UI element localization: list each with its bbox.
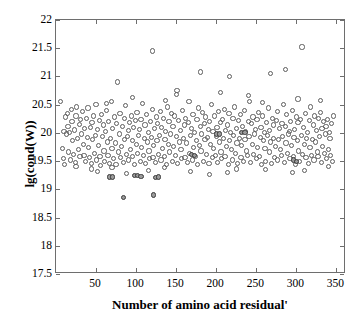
data-point [231, 133, 236, 138]
y-tick-mark [340, 133, 344, 134]
data-point [142, 122, 147, 127]
data-point [318, 110, 323, 115]
data-point [283, 67, 288, 72]
data-point [290, 108, 295, 113]
x-tick-mark [136, 20, 137, 24]
data-point [167, 149, 172, 154]
data-point [282, 160, 287, 165]
data-point [71, 152, 76, 157]
data-point [89, 120, 94, 125]
data-point [257, 154, 262, 159]
x-tick-label: 250 [247, 277, 264, 289]
data-point [330, 159, 335, 164]
data-point [311, 122, 316, 127]
data-point [81, 142, 86, 147]
data-point [139, 145, 144, 150]
data-point [113, 140, 118, 145]
data-point [246, 134, 251, 139]
data-point [162, 154, 167, 159]
data-point [240, 124, 245, 129]
data-point [186, 120, 191, 125]
scatter-points-layer [56, 20, 344, 272]
data-point [250, 142, 255, 147]
data-point [124, 152, 129, 157]
data-point [249, 121, 254, 126]
data-point [99, 112, 104, 117]
data-point [95, 127, 100, 132]
data-point [205, 135, 210, 140]
data-point [175, 161, 180, 166]
data-point [326, 164, 331, 169]
data-point [323, 124, 328, 129]
data-point [171, 144, 176, 149]
data-point [146, 168, 151, 173]
data-point [299, 44, 304, 49]
data-point [69, 107, 74, 112]
data-point [86, 145, 91, 150]
data-point [233, 151, 238, 156]
data-point [150, 48, 155, 53]
y-tick-mark [56, 133, 60, 134]
x-tick-mark [336, 20, 337, 24]
data-point [79, 131, 84, 136]
data-point [109, 99, 114, 104]
y-tick-label: 19.5 [32, 154, 52, 166]
data-point [104, 108, 109, 113]
data-point [170, 159, 175, 164]
data-point [160, 146, 165, 151]
x-tick-mark [216, 20, 217, 24]
data-point [225, 170, 230, 175]
data-point [242, 108, 247, 113]
data-point [188, 169, 193, 174]
data-point [120, 124, 125, 129]
data-point [97, 154, 102, 159]
data-point [269, 161, 274, 166]
data-point [319, 160, 324, 165]
y-tick-label: 22 [41, 13, 53, 25]
y-tick-mark [56, 105, 60, 106]
data-point [151, 192, 156, 197]
data-point [248, 160, 253, 165]
x-tick-mark [176, 268, 177, 272]
data-point [279, 153, 284, 158]
data-point [192, 130, 197, 135]
data-point [91, 113, 96, 118]
data-point [287, 129, 292, 134]
data-point [247, 99, 252, 104]
y-tick-mark [56, 76, 60, 77]
x-tick-label: 100 [126, 277, 143, 289]
x-tick-mark [136, 268, 137, 272]
data-point [211, 146, 216, 151]
data-point [241, 159, 246, 164]
data-point [65, 124, 70, 129]
data-point [75, 136, 80, 141]
data-point [173, 153, 178, 158]
data-point [150, 107, 155, 112]
data-point [201, 159, 206, 164]
data-point [234, 126, 239, 131]
y-tick-mark [56, 274, 60, 275]
data-point [281, 102, 286, 107]
data-point [77, 122, 82, 127]
data-point [328, 153, 333, 158]
data-point [100, 134, 105, 139]
data-point [78, 117, 83, 122]
data-point [289, 143, 294, 148]
data-point [158, 109, 163, 114]
data-point [317, 134, 322, 139]
data-point [202, 121, 207, 126]
y-tick-mark [56, 189, 60, 190]
data-point [320, 144, 325, 149]
data-point [143, 161, 148, 166]
x-tick-mark [96, 268, 97, 272]
data-point [290, 170, 295, 175]
x-tick-label: 150 [167, 277, 184, 289]
data-point [72, 127, 77, 132]
y-tick-mark [56, 20, 60, 21]
x-tick-label: 50 [89, 277, 101, 289]
data-point [245, 153, 250, 158]
data-point [93, 102, 98, 107]
x-axis-title: Number of amino acid residual' [55, 297, 345, 313]
data-point [237, 136, 242, 141]
data-point [207, 172, 212, 177]
